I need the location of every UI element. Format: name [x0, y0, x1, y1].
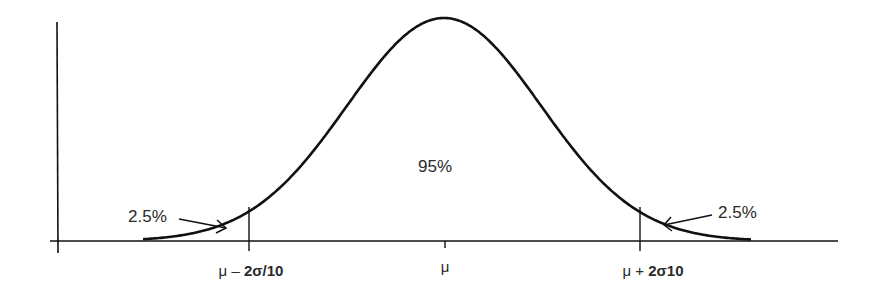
x-tick-prefix: μ –: [219, 262, 244, 279]
y-axis: [57, 22, 58, 253]
x-tick-bold: 2σ10: [648, 262, 683, 279]
left-tail-percent-label: 2.5%: [128, 207, 167, 227]
normal-distribution-chart: [0, 0, 879, 300]
x-tick-prefix: μ +: [622, 262, 648, 279]
center-percent-label: 95%: [418, 157, 452, 177]
right-tail-percent-label: 2.5%: [718, 203, 757, 223]
right-tail-arrow: [664, 215, 712, 231]
x-tick-label-upper: μ + 2σ10: [622, 262, 683, 279]
x-tick-prefix: μ: [441, 258, 450, 275]
bell-curve: [143, 18, 751, 240]
x-tick-label-mean: μ: [441, 258, 450, 275]
x-tick-bold: 2σ/10: [244, 262, 283, 279]
x-tick-label-lower: μ – 2σ/10: [219, 262, 284, 279]
